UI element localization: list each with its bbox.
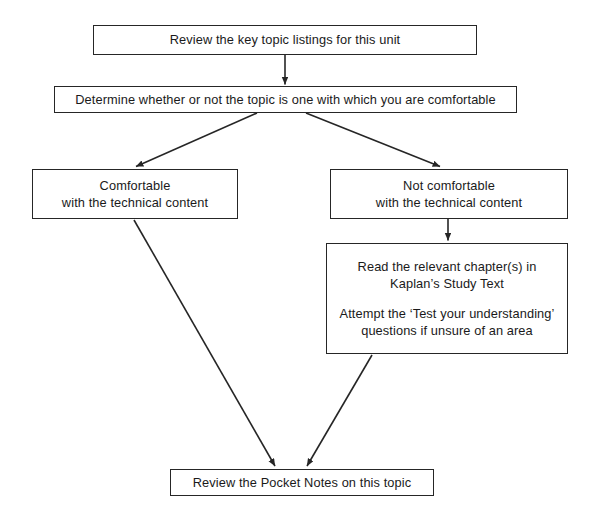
connector-read-to-pocket-notes (307, 355, 372, 466)
connector-comfortable-to-pocket-notes (134, 220, 275, 466)
node-text-line: Kaplan’s Study Text (390, 275, 504, 292)
node-text-line: Review the key topic listings for this u… (170, 31, 400, 48)
node-pocket-notes: Review the Pocket Notes on this topic (170, 469, 434, 496)
flowchart-canvas: Review the key topic listings for this u… (0, 0, 604, 524)
connector-determine-to-not-comfortable (306, 113, 440, 167)
node-text-line: Review the Pocket Notes on this topic (193, 474, 412, 491)
node-text-line: Read the relevant chapter(s) in (358, 258, 537, 275)
node-text-line: questions if unsure of an area (361, 322, 533, 339)
node-comfortable: Comfortable with the technical content (32, 169, 238, 219)
node-text-line: Comfortable (100, 177, 171, 194)
node-text-line: Determine whether or not the topic is on… (75, 91, 495, 108)
node-read-chapters: Read the relevant chapter(s) in Kaplan’s… (326, 243, 568, 354)
node-text-line: Not comfortable (403, 177, 495, 194)
node-text-line: Attempt the ‘Test your understanding’ (340, 305, 555, 322)
node-text-line: with the technical content (62, 194, 208, 211)
node-text-line: with the technical content (376, 194, 522, 211)
node-not-comfortable: Not comfortable with the technical conte… (330, 169, 568, 219)
node-determine-comfort: Determine whether or not the topic is on… (54, 86, 517, 113)
connector-determine-to-comfortable (136, 113, 257, 167)
node-review-key-topics: Review the key topic listings for this u… (93, 25, 477, 55)
